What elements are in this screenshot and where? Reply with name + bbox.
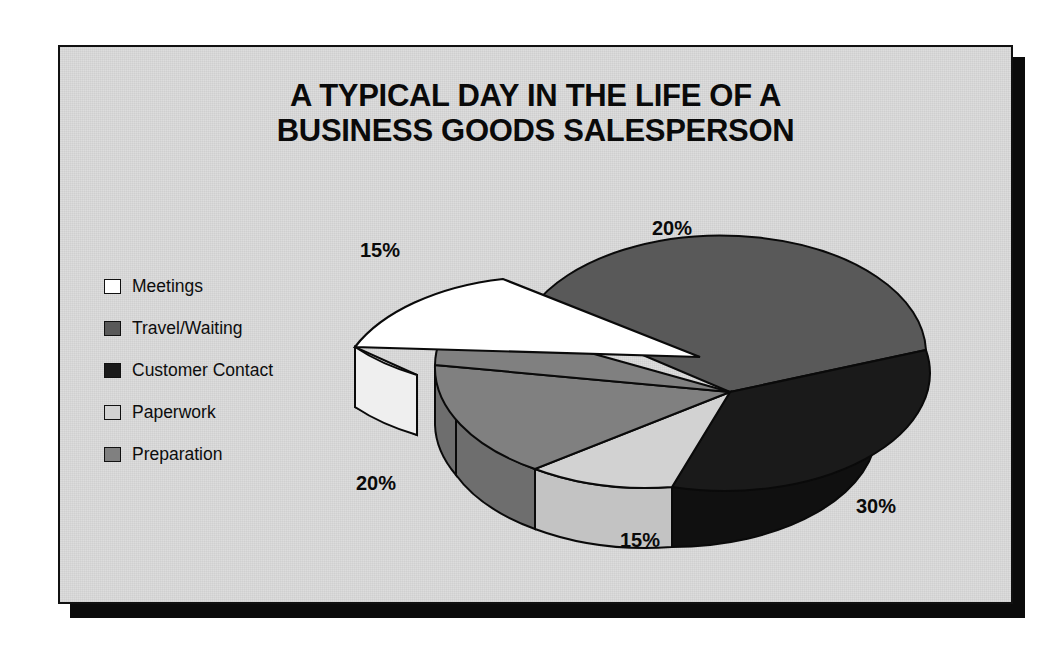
legend-item-meetings: Meetings: [104, 265, 273, 307]
legend-item-customer-contact: Customer Contact: [104, 349, 273, 391]
pct-label-meetings: 15%: [360, 239, 400, 262]
scanned-page: A TYPICAL DAY IN THE LIFE OF A BUSINESS …: [0, 0, 1037, 661]
legend-label-preparation: Preparation: [132, 444, 222, 465]
legend-swatch-preparation: [104, 447, 121, 462]
legend-item-travel-waiting: Travel/Waiting: [104, 307, 273, 349]
legend-label-paperwork: Paperwork: [132, 402, 216, 423]
chart-panel: A TYPICAL DAY IN THE LIFE OF A BUSINESS …: [58, 45, 1013, 604]
legend-swatch-travel-waiting: [104, 321, 121, 336]
legend-label-travel-waiting: Travel/Waiting: [132, 318, 243, 339]
chart-title: A TYPICAL DAY IN THE LIFE OF A BUSINESS …: [60, 79, 1011, 148]
legend-swatch-paperwork: [104, 405, 121, 420]
pct-label-customer-contact: 30%: [856, 495, 896, 518]
pct-label-preparation: 20%: [356, 472, 396, 495]
legend-swatch-meetings: [104, 279, 121, 294]
legend-swatch-customer-contact: [104, 363, 121, 378]
legend-item-preparation: Preparation: [104, 433, 273, 475]
chart-legend: Meetings Travel/Waiting Customer Contact…: [104, 265, 273, 475]
chart-title-line-2: BUSINESS GOODS SALESPERSON: [60, 114, 1011, 149]
legend-label-customer-contact: Customer Contact: [132, 360, 273, 381]
legend-item-paperwork: Paperwork: [104, 391, 273, 433]
chart-title-line-1: A TYPICAL DAY IN THE LIFE OF A: [60, 79, 1011, 114]
legend-label-meetings: Meetings: [132, 276, 203, 297]
pct-label-travel-waiting: 20%: [652, 217, 692, 240]
pct-label-paperwork: 15%: [620, 529, 660, 552]
